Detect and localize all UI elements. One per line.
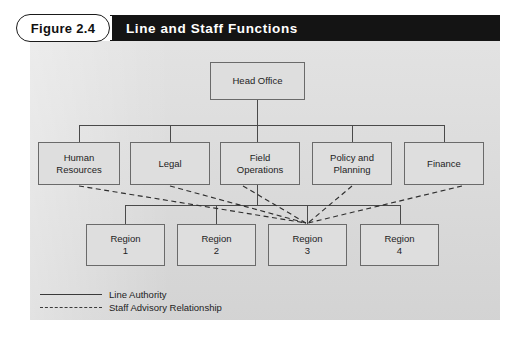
figure-number-capsule: Figure 2.4 xyxy=(16,14,110,42)
org-node-field-operations-label: Field Operations xyxy=(235,152,285,176)
org-node-finance-label: Finance xyxy=(425,158,463,170)
chart-legend: Line Authority Staff Advisory Relationsh… xyxy=(40,288,300,314)
org-node-human-resources-label: Human Resources xyxy=(54,152,103,176)
org-node-policy-and-planning-label: Policy and Planning xyxy=(328,152,376,176)
org-node-legal-label: Legal xyxy=(156,158,183,170)
figure-number-label: Figure 2.4 xyxy=(17,21,109,36)
org-node-region-3-label: Region 3 xyxy=(290,233,324,257)
org-node-region-3[interactable]: Region 3 xyxy=(268,224,347,266)
org-node-field-operations[interactable]: Field Operations xyxy=(220,142,300,185)
figure-container: Line and Staff Functions Figure 2.4 xyxy=(0,0,514,340)
org-node-policy-and-planning[interactable]: Policy and Planning xyxy=(312,142,392,185)
org-node-legal[interactable]: Legal xyxy=(130,142,210,185)
org-node-finance[interactable]: Finance xyxy=(404,142,484,185)
org-node-region-4[interactable]: Region 4 xyxy=(360,224,439,266)
org-node-region-1[interactable]: Region 1 xyxy=(86,224,165,266)
legend-solid-line-swatch xyxy=(40,294,102,296)
legend-dashed-line-swatch xyxy=(40,307,102,309)
legend-item-line-authority-label: Line Authority xyxy=(109,289,167,300)
legend-item-staff-advisory: Staff Advisory Relationship xyxy=(40,301,300,314)
org-node-region-4-label: Region 4 xyxy=(382,233,416,257)
org-node-region-1-label: Region 1 xyxy=(108,233,142,257)
org-node-region-2[interactable]: Region 2 xyxy=(177,224,256,266)
legend-item-line-authority: Line Authority xyxy=(40,288,300,301)
legend-item-staff-advisory-label: Staff Advisory Relationship xyxy=(109,302,222,313)
org-node-human-resources[interactable]: Human Resources xyxy=(38,142,120,185)
org-node-head-office-label: Head Office xyxy=(231,75,285,87)
org-node-head-office[interactable]: Head Office xyxy=(210,62,305,100)
org-node-region-2-label: Region 2 xyxy=(199,233,233,257)
